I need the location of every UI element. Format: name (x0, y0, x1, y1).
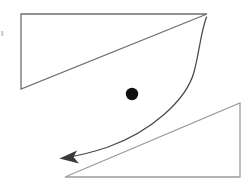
left-edge-speck-icon (1, 31, 4, 36)
diagram-canvas (0, 0, 252, 187)
black-point-marker (126, 88, 138, 100)
diagram-svg (0, 0, 252, 187)
